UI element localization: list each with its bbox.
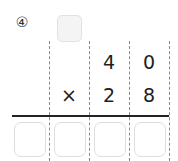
answer-box-hundreds[interactable]	[54, 122, 86, 157]
multiplier-digit	[10, 81, 50, 109]
multiplicand-digit	[10, 48, 50, 76]
problem-number: ④	[14, 14, 30, 30]
multiplicand-digit: 0	[129, 48, 169, 76]
multiplier-digit: 8	[129, 81, 169, 109]
multiplier-digit: 2	[89, 81, 129, 109]
multiply-sign: ×	[49, 81, 89, 109]
carry-input-box[interactable]	[57, 15, 82, 42]
column-divider	[169, 41, 170, 161]
answer-box-ones[interactable]	[134, 122, 166, 157]
answer-box-thousands[interactable]	[14, 122, 46, 157]
multiplicand-digit: 4	[89, 48, 129, 76]
answer-box-tens[interactable]	[94, 122, 126, 157]
multiplicand-digit	[50, 48, 90, 76]
result-line	[12, 115, 169, 117]
